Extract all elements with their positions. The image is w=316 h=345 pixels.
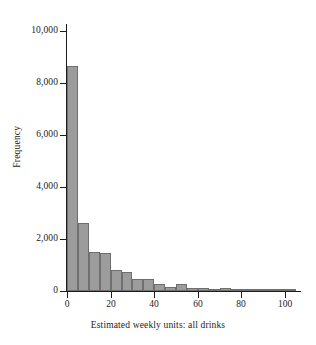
y-axis-tick bbox=[60, 83, 66, 84]
x-axis-tick-label: 40 bbox=[149, 300, 159, 310]
histogram-bar bbox=[111, 270, 122, 291]
histogram-bar bbox=[143, 279, 154, 291]
x-axis-tick bbox=[111, 292, 112, 298]
x-axis-tick-label: 20 bbox=[106, 300, 116, 310]
histogram-bar bbox=[89, 252, 100, 291]
histogram-bar bbox=[122, 272, 133, 291]
y-axis-tick bbox=[60, 31, 66, 32]
y-axis-tick-label: 10,000 bbox=[31, 26, 58, 36]
histogram-bar bbox=[176, 284, 187, 291]
x-axis-tick-label: 80 bbox=[236, 300, 246, 310]
x-axis-line bbox=[66, 291, 301, 292]
x-axis-tick bbox=[198, 292, 199, 298]
y-axis-tick bbox=[60, 291, 66, 292]
histogram-bar bbox=[100, 253, 111, 291]
x-axis-tick-label: 0 bbox=[65, 300, 70, 310]
y-axis-tick bbox=[60, 239, 66, 240]
x-axis-tick bbox=[67, 292, 68, 298]
y-axis-title: Frequency bbox=[13, 107, 23, 187]
x-axis-tick bbox=[241, 292, 242, 298]
y-axis-tick bbox=[60, 187, 66, 188]
y-axis-tick-label: 6,000 bbox=[36, 130, 58, 140]
x-axis-title: Estimated weekly units: all drinks bbox=[0, 321, 316, 331]
y-axis-tick-label: 0 bbox=[53, 286, 58, 296]
y-axis-line bbox=[66, 24, 67, 292]
bar-series bbox=[67, 31, 296, 291]
histogram-bar bbox=[78, 223, 89, 291]
y-axis-tick-label: 8,000 bbox=[36, 78, 58, 88]
y-axis-tick bbox=[60, 135, 66, 136]
x-axis-tick-label: 60 bbox=[193, 300, 203, 310]
histogram-bar bbox=[154, 284, 165, 291]
x-axis-tick bbox=[154, 292, 155, 298]
y-axis-tick-label: 4,000 bbox=[36, 182, 58, 192]
x-axis-tick bbox=[285, 292, 286, 298]
y-axis-tick-label: 2,000 bbox=[36, 234, 58, 244]
x-axis-tick-label: 100 bbox=[278, 300, 292, 310]
plot-area bbox=[67, 31, 296, 291]
histogram-figure: 02,0004,0006,0008,00010,000 020406080100… bbox=[0, 0, 316, 345]
histogram-bar bbox=[67, 66, 78, 291]
histogram-bar bbox=[132, 279, 143, 291]
